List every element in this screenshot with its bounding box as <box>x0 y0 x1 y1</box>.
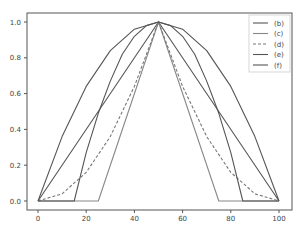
x-tick-label: 80 <box>226 215 235 223</box>
y-tick-label: 0.2 <box>10 162 21 170</box>
y-tick-label: 0.6 <box>10 90 22 98</box>
y-tick-label: 1.0 <box>10 19 21 27</box>
y-tick-label: 0.8 <box>10 54 21 62</box>
x-tick-label: 60 <box>178 215 187 223</box>
x-tick-label: 0 <box>36 215 40 223</box>
legend-label: (d) <box>274 41 284 49</box>
x-tick-label: 100 <box>272 215 285 223</box>
legend-label: (f) <box>274 62 282 70</box>
y-tick-label: 0.4 <box>10 126 22 134</box>
x-axis: 020406080100 <box>36 210 286 223</box>
x-tick-label: 20 <box>82 215 91 223</box>
line-chart: 020406080100 0.00.20.40.60.81.0 (b)(c)(d… <box>0 0 299 231</box>
legend-label: (e) <box>274 51 284 59</box>
y-axis: 0.00.20.40.60.81.0 <box>10 19 27 206</box>
x-tick-label: 40 <box>130 215 139 223</box>
y-tick-label: 0.0 <box>10 198 21 206</box>
legend-label: (c) <box>274 30 284 38</box>
legend-label: (b) <box>274 20 284 28</box>
legend: (b)(c)(d)(e)(f) <box>249 15 290 72</box>
